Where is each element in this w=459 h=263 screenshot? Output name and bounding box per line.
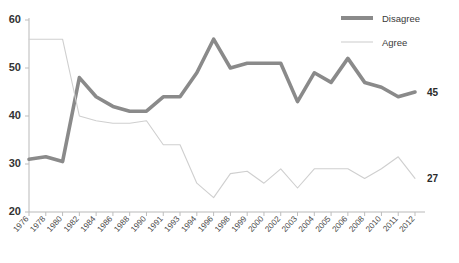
series-end-labels: 4527 xyxy=(427,87,439,184)
chart-container: 2030405060 19761978198019821984198619881… xyxy=(0,0,459,263)
x-tick-label: 1993 xyxy=(163,214,182,234)
x-tick-label: 2006 xyxy=(330,214,349,234)
end-label-agree: 27 xyxy=(427,173,439,184)
x-axis: 1976197819801982198419861988199019911993… xyxy=(12,212,425,234)
x-tick-label: 2008 xyxy=(347,214,366,234)
x-tick-label: 1988 xyxy=(112,214,131,234)
line-chart: 2030405060 19761978198019821984198619881… xyxy=(0,0,459,263)
x-tick-label: 1986 xyxy=(96,214,115,234)
x-tick-label: 1980 xyxy=(45,214,64,234)
x-tick-label: 2010 xyxy=(364,214,383,234)
y-tick-label: 20 xyxy=(9,205,21,217)
x-tick-label: 1990 xyxy=(129,214,148,234)
x-tick-label: 1999 xyxy=(230,214,249,234)
x-tick-label: 2011 xyxy=(381,214,400,233)
x-tick-label: 1991 xyxy=(146,214,165,234)
series-line-disagree xyxy=(29,39,415,161)
x-tick-label: 2000 xyxy=(247,214,266,234)
x-tick-label: 2003 xyxy=(280,214,299,234)
x-tick-label: 1996 xyxy=(196,214,215,234)
series-lines xyxy=(29,39,415,197)
legend-label-agree: Agree xyxy=(382,37,407,48)
x-tick-label: 1982 xyxy=(62,214,81,234)
y-tick-label: 40 xyxy=(9,109,21,121)
series-line-agree xyxy=(29,39,415,197)
y-tick-label: 50 xyxy=(9,61,21,73)
x-tick-label: 2004 xyxy=(297,214,316,234)
chart-legend: DisagreeAgree xyxy=(341,13,420,48)
y-tick-label: 60 xyxy=(9,13,21,25)
legend-label-disagree: Disagree xyxy=(382,13,420,24)
x-tick-label: 1978 xyxy=(28,214,47,234)
x-tick-label: 2002 xyxy=(263,214,282,234)
end-label-disagree: 45 xyxy=(427,87,439,98)
y-tick-label: 30 xyxy=(9,157,21,169)
x-tick-label: 2005 xyxy=(314,214,333,234)
x-tick-label: 1998 xyxy=(213,214,232,234)
x-tick-label: 1994 xyxy=(179,214,198,234)
y-axis: 2030405060 xyxy=(9,13,29,217)
x-tick-label: 1984 xyxy=(79,214,98,234)
x-tick-label: 2012 xyxy=(398,214,417,234)
